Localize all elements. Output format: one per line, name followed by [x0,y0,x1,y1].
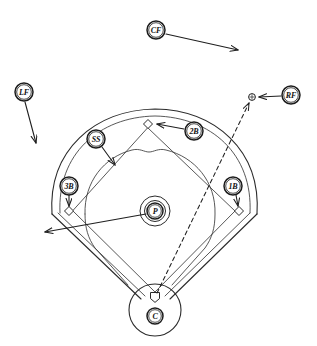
left-fielder-label: LF [18,88,30,97]
infield-dirt-boundary-left [85,214,128,285]
right-fielder-movement-arrow [259,96,281,97]
center-fielder-movement-arrow [166,34,238,50]
third-base [65,207,74,216]
position-badges-layer: CFLFRF2BSS3B1BPC [15,21,300,324]
shortstop-label: SS [92,135,101,144]
second-baseman-label: 2B [189,127,200,136]
shortstop-movement-arrow [102,147,115,165]
position-badge-2b[interactable]: 2B [185,122,203,140]
second-baseman-movement-arrow [157,124,184,129]
first-baseman-label: 1B [229,182,239,191]
second-base [144,120,153,129]
right-fielder-label: RF [285,91,297,100]
center-fielder-label: CF [151,26,162,35]
left-foul-line-inner [58,213,145,296]
position-badge-rf[interactable]: RF [282,86,300,104]
right-foul-line-inner [165,213,250,296]
position-badge-lf[interactable]: LF [15,83,33,101]
position-badge-3b[interactable]: 3B [60,177,78,195]
position-badge-1b[interactable]: 1B [224,177,242,195]
catcher-label: C [152,312,158,321]
third-baseman-label: 3B [64,182,75,191]
position-badge-p[interactable]: P [147,203,163,219]
first-base [235,207,244,216]
position-badge-c[interactable]: C [147,308,163,324]
left-foul-line-outer [52,214,141,299]
home-plate [151,293,160,303]
first-baseman-movement-arrow [236,195,238,206]
position-badge-cf[interactable]: CF [147,21,165,39]
left-fielder-movement-arrow [25,102,36,143]
baseball-field-diagram: CFLFRF2BSS3B1BPC [0,0,317,346]
pitcher-movement-arrow [45,214,146,232]
position-badge-ss[interactable]: SS [87,130,105,148]
pitcher-label: P [153,207,158,216]
ball-marker-layer [249,94,256,101]
